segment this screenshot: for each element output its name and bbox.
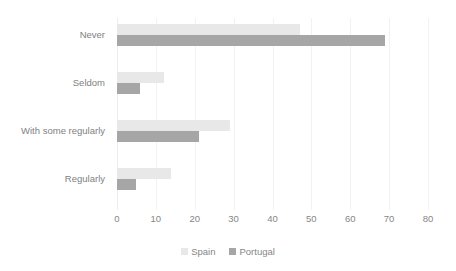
legend-swatch-portugal-icon: [229, 248, 236, 255]
x-tick-label-50: 50: [306, 213, 317, 224]
chart-legend: SpainPortugal: [0, 246, 456, 257]
category-label-with-some-regularly: With some regularly: [21, 125, 105, 136]
bar-group: [117, 114, 428, 162]
bar-spain-seldom[interactable]: [117, 72, 164, 83]
category-label-regularly: Regularly: [65, 173, 105, 184]
x-tick-label-70: 70: [384, 213, 395, 224]
x-tick-label-0: 0: [114, 213, 119, 224]
legend-label-spain: Spain: [191, 246, 215, 257]
bar-spain-regularly[interactable]: [117, 168, 171, 179]
x-tick-label-40: 40: [267, 213, 278, 224]
legend-swatch-spain-icon: [181, 248, 188, 255]
bar-portugal-seldom[interactable]: [117, 83, 140, 94]
legend-label-portugal: Portugal: [239, 246, 274, 257]
legend-item-portugal[interactable]: Portugal: [229, 246, 274, 257]
bar-group: [117, 162, 428, 210]
bar-group: [117, 66, 428, 114]
x-tick-label-30: 30: [228, 213, 239, 224]
plot-area: [117, 18, 428, 210]
x-tick-label-80: 80: [423, 213, 434, 224]
category-label-seldom: Seldom: [73, 77, 105, 88]
bar-spain-with-some-regularly[interactable]: [117, 120, 230, 131]
category-axis-labels: NeverSeldomWith some regularlyRegularly: [0, 18, 110, 210]
x-tick-label-20: 20: [189, 213, 200, 224]
value-axis: 01020304050607080: [117, 213, 428, 229]
category-label-never: Never: [80, 29, 105, 40]
bar-group: [117, 18, 428, 66]
x-tick-label-60: 60: [345, 213, 356, 224]
legend-item-spain[interactable]: Spain: [181, 246, 215, 257]
bar-portugal-with-some-regularly[interactable]: [117, 131, 199, 142]
bar-portugal-regularly[interactable]: [117, 179, 136, 190]
x-tick-label-10: 10: [151, 213, 162, 224]
bar-portugal-never[interactable]: [117, 35, 385, 46]
gridline-80: [428, 18, 429, 210]
bar-spain-never[interactable]: [117, 24, 300, 35]
bar-chart: NeverSeldomWith some regularlyRegularly …: [0, 0, 456, 271]
